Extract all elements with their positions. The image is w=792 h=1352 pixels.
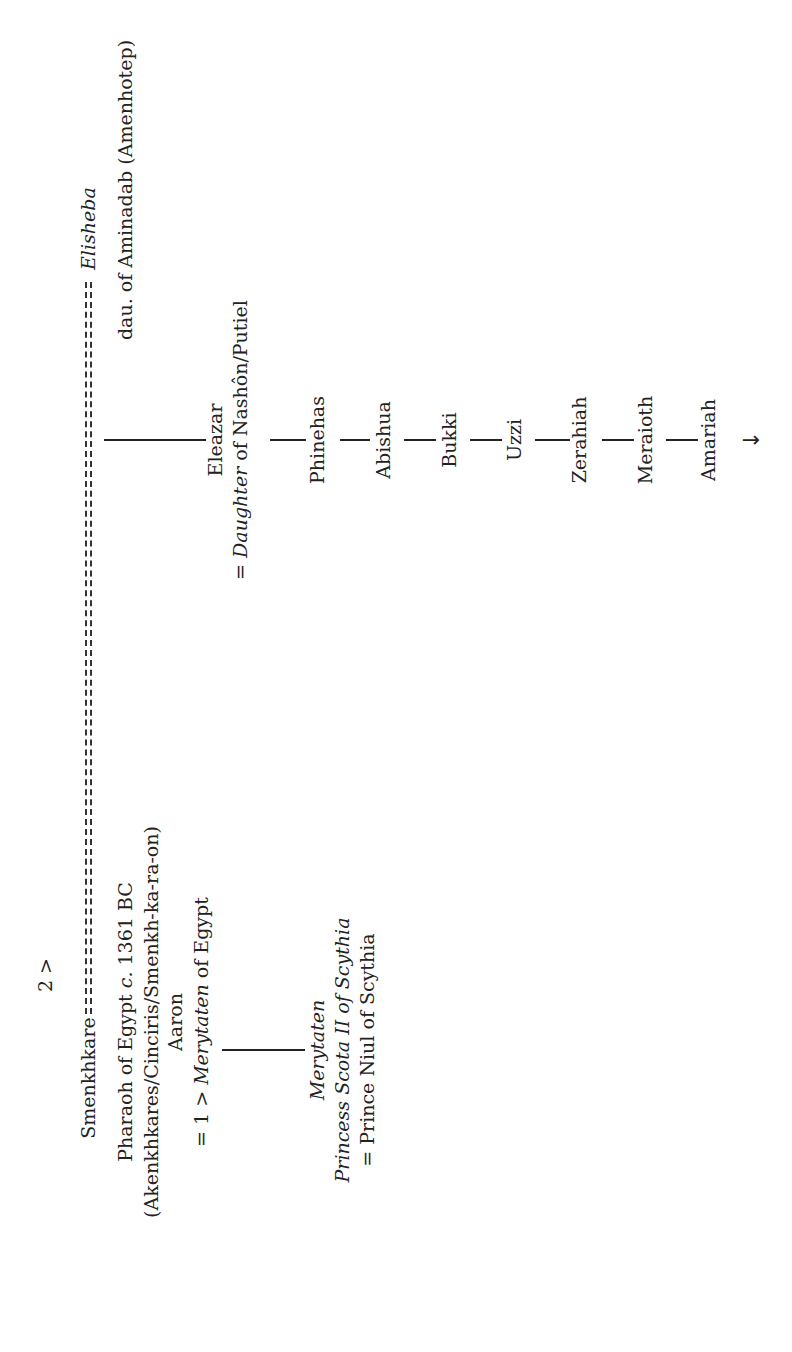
- husband-title: Pharaoh of Egypt c. 1361 BC: [114, 882, 136, 1162]
- husband-name: Smenkhkare: [77, 1017, 99, 1138]
- daughter-title: Princess Scota II of Scythia: [331, 918, 353, 1183]
- husband-first-spouse: = 1 > Merytaten of Egypt: [190, 897, 212, 1147]
- descent-line-eleazar: [104, 439, 206, 441]
- descendant-meraioth: Meraioth: [634, 396, 656, 485]
- descendant-amariah: Amariah: [697, 399, 719, 481]
- descent-line: [602, 439, 634, 441]
- marriage-connector: [85, 282, 92, 1014]
- husband-aliases: (Akenkhkares/Cinciris/Smenkh-ka-ra-on): [140, 826, 162, 1218]
- husband-alt-name: Aaron: [164, 993, 186, 1051]
- daughter-name: Merytaten: [306, 1000, 328, 1101]
- continuation-marker: 2 >: [34, 958, 56, 992]
- descendant-uzzi: Uzzi: [503, 419, 525, 461]
- descent-line: [270, 439, 306, 441]
- wife-parent: dau. of Aminadab (Amenhotep): [114, 40, 136, 340]
- daughter-spouse: = Prince Niul of Scythia: [356, 933, 378, 1166]
- descendant-bukki: Bukki: [438, 412, 460, 467]
- descent-line: [470, 439, 502, 441]
- wife-name: Elisheba: [77, 187, 99, 270]
- descent-line: [340, 439, 370, 441]
- descent-line-merytaten: [222, 1049, 305, 1051]
- descent-line: [404, 439, 436, 441]
- son-name: Eleazar: [204, 404, 226, 477]
- descendant-abishua: Abishua: [372, 401, 394, 479]
- descent-line: [535, 439, 570, 441]
- descendant-zerahiah: Zerahiah: [568, 397, 590, 484]
- genealogy-page: 2 > Smenkhkare Elisheba dau. of Aminadab…: [0, 0, 792, 1352]
- arrow-right-icon: →: [742, 429, 760, 451]
- descent-line: [666, 439, 698, 441]
- descendant-phinehas: Phinehas: [306, 396, 328, 484]
- son-spouse: = Daughter of Nashôn/Putiel: [229, 300, 251, 580]
